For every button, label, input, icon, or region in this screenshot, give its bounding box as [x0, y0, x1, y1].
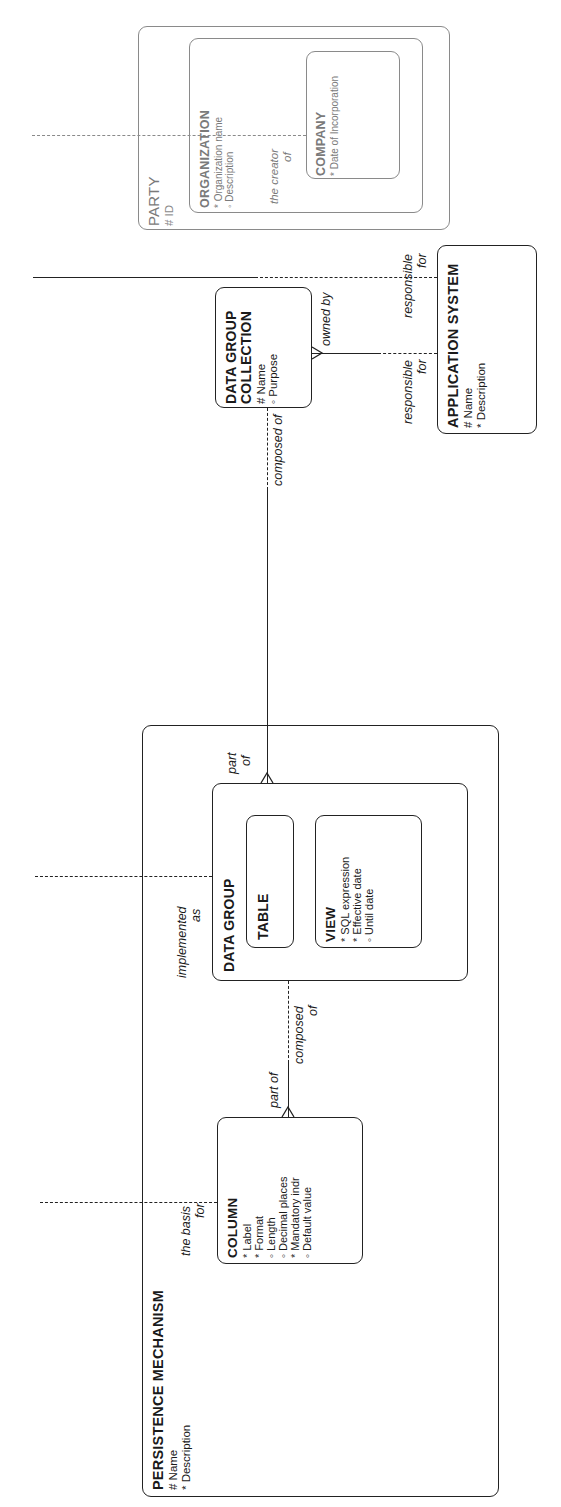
persistence-attr-name: # Name — [167, 1290, 180, 1490]
column-label: COLUMN * Label * Format ◦ Length ◦ Decim… — [226, 1176, 313, 1258]
rel-line-owned-by-dashed — [378, 353, 437, 354]
application-system-label: APPLICATION SYSTEM # Name * Description — [446, 264, 487, 428]
crows-foot-icon — [259, 771, 275, 783]
company-title: COMPANY — [315, 76, 329, 176]
dgc-title-line2: COLLECTION — [239, 310, 254, 404]
rel-label-responsible-for-b: responsible for — [402, 359, 430, 424]
data-group-title: DATA GROUP — [222, 878, 237, 972]
crows-foot-icon — [280, 1105, 296, 1117]
persistence-mechanism-title: PERSISTENCE MECHANISM — [151, 1290, 167, 1490]
column-attr-default: ◦ Default value — [301, 1176, 313, 1258]
rel-label-creator-of: the creator of — [268, 149, 293, 204]
rel-line-composed-of-dashed — [267, 408, 268, 490]
rel-label-composed-of-dg: composed of — [293, 1006, 321, 1064]
rel-label-part-of-dg: part of — [226, 752, 254, 774]
party-label: PARTY # ID — [146, 176, 175, 226]
rel-label-basis-for: the basis for — [180, 1203, 208, 1256]
view-attr-effective: * Effective date — [351, 857, 363, 942]
column-attr-format: * Format — [253, 1176, 265, 1258]
column-attr-label: * Label — [241, 1176, 253, 1258]
rel-line-appsys-solid — [33, 277, 255, 278]
rel-line-dg-column-dashed — [288, 981, 289, 1063]
rel-label-part-of-col: part of — [268, 1073, 282, 1108]
view-label: VIEW * SQL expression * Effective date ◦… — [324, 857, 375, 942]
company-attr-incorporation: * Date of Incorporation — [329, 76, 340, 176]
crows-foot-icon — [312, 345, 326, 361]
dgc-title-line1: DATA GROUP — [224, 310, 239, 404]
rel-label-owned-by: owned by — [320, 292, 334, 346]
view-title: VIEW — [324, 857, 339, 942]
data-group-collection-label: DATA GROUP COLLECTION # Name ◦ Purpose — [224, 310, 280, 404]
column-title: COLUMN — [226, 1176, 241, 1258]
organization-label: ORGANIZATION * Organization name ◦ Descr… — [199, 110, 235, 208]
column-attr-mandatory: * Mandatory indr — [289, 1176, 301, 1258]
dgc-attr-name: # Name — [255, 310, 268, 404]
view-attr-sql: * SQL expression — [339, 857, 351, 942]
table-title: TABLE — [256, 893, 271, 940]
rel-label-responsible-for-a: responsible for — [402, 253, 430, 318]
view-attr-until: ◦ Until date — [363, 857, 375, 942]
application-system-attr-description: * Description — [475, 264, 488, 428]
rel-label-implemented-as: implemented as — [176, 906, 204, 978]
party-attr-id: # ID — [163, 176, 176, 226]
application-system-attr-name: # Name — [462, 264, 475, 428]
table-label: TABLE — [256, 893, 271, 940]
organization-attr-name: * Organization name — [213, 110, 224, 208]
company-label: COMPANY * Date of Incorporation — [315, 76, 340, 176]
data-group-label: DATA GROUP — [222, 878, 237, 972]
rel-label-composed-of-dgc: composed of — [272, 414, 286, 486]
rel-line-party — [32, 135, 306, 136]
party-title: PARTY — [146, 176, 163, 226]
column-attr-length: ◦ Length — [265, 1176, 277, 1258]
organization-title: ORGANIZATION — [199, 110, 213, 208]
column-attr-decimal-places: ◦ Decimal places — [277, 1176, 289, 1258]
persistence-attr-description: * Description — [180, 1290, 193, 1490]
rel-line-implemented-as — [35, 876, 212, 877]
persistence-mechanism-label: PERSISTENCE MECHANISM # Name * Descripti… — [151, 1290, 192, 1490]
dgc-attr-purpose: ◦ Purpose — [267, 310, 280, 404]
application-system-title: APPLICATION SYSTEM — [446, 264, 462, 428]
organization-attr-description: ◦ Description — [224, 110, 235, 208]
